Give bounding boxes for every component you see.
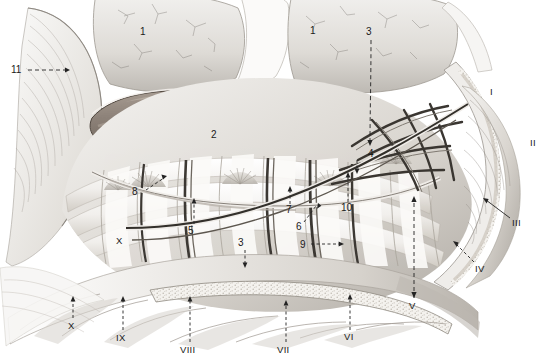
label-11: 11 [11, 65, 21, 75]
label-roman-X-bottom: X [68, 321, 75, 331]
label-roman-I: I [490, 87, 493, 97]
anatomical-illustration [0, 0, 537, 363]
label-6: 6 [296, 222, 302, 232]
label-roman-VI: VI [344, 332, 354, 342]
label-8: 8 [132, 187, 138, 197]
label-roman-IV: IV [475, 264, 485, 274]
label-2: 2 [211, 130, 217, 140]
label-roman-VIII: VIII [180, 345, 195, 355]
label-9: 9 [300, 240, 306, 250]
upper-lobe-left [93, 0, 244, 92]
label-roman-X-inner: X [116, 236, 123, 246]
label-1-left: 1 [140, 27, 146, 37]
label-roman-II: II [530, 138, 536, 148]
label-roman-III: III [512, 218, 521, 228]
label-4: 4 [368, 149, 374, 159]
label-10: 10 [341, 203, 352, 213]
label-3-lower: 3 [238, 238, 244, 248]
illustration-canvas: 1 1 2 3 3 4 5 6 7 8 9 10 11 I II III IV … [0, 0, 537, 363]
label-5: 5 [188, 226, 194, 236]
label-7: 7 [286, 205, 292, 215]
label-3-upper: 3 [366, 27, 372, 37]
label-roman-IX: IX [116, 333, 126, 343]
label-roman-VII: VII [277, 345, 290, 355]
label-roman-V: V [409, 301, 416, 311]
label-1-right: 1 [310, 26, 316, 36]
